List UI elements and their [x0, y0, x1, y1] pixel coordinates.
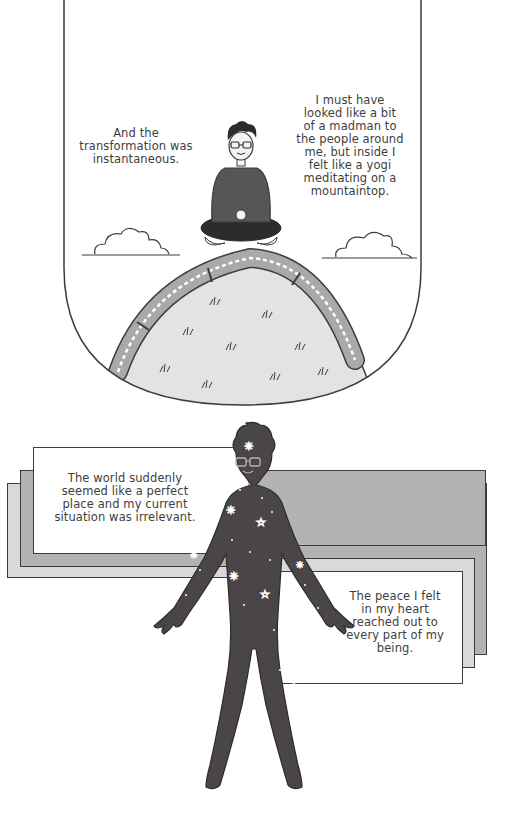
top-panel: And the transformation was instantaneous… — [0, 0, 519, 420]
sparkle-icon: ✳ — [229, 570, 238, 583]
caption-line: instantaneous. — [76, 153, 196, 166]
caption-madman-yogi: I must have looked like a bit of a madma… — [290, 94, 410, 198]
sparkle-icon: ✳ — [190, 550, 198, 560]
star-icon: ☆ — [260, 588, 270, 601]
sparkle-icon: ✳ — [244, 440, 253, 453]
caption-line: mountaintop. — [290, 185, 410, 198]
sparkle-icon: ✳ — [219, 615, 228, 628]
star-icon: ☆ — [256, 516, 266, 529]
bottom-panel: The world suddenly seemed like a perfect… — [0, 420, 519, 815]
star-icon: ☆ — [205, 680, 215, 693]
sparkle-icon: ✳ — [226, 504, 235, 517]
caption-transformation: And the transformation was instantaneous… — [76, 127, 196, 166]
top-panel-art — [0, 0, 519, 420]
starry-figure: ✳ ✳ ☆ ✳ ☆ ✳ ✳ ☆ ✳ ✳ ✳ — [0, 420, 519, 815]
sparkle-icon: ✳ — [290, 682, 298, 692]
sparkle-icon: ✳ — [296, 560, 304, 570]
sparkle-icon: ✳ — [284, 639, 292, 649]
